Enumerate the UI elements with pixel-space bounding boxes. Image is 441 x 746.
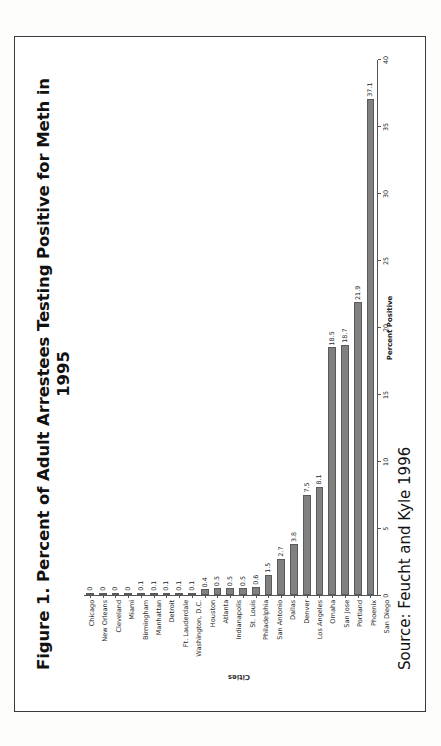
bar (290, 544, 298, 595)
bar (214, 588, 222, 595)
bar (239, 588, 247, 595)
bar-value-label: 0.5 (214, 576, 220, 586)
bar (316, 487, 324, 595)
bar-row: 1.5 (262, 60, 275, 595)
category-tick (230, 595, 231, 598)
bar-value-label: 7.5 (304, 482, 310, 492)
category-tick (332, 595, 333, 598)
bar-row: 18.7 (339, 60, 352, 595)
bar-row: 0.4 (198, 60, 211, 595)
category-label: Omaha (327, 596, 340, 666)
bar-value-label: 0.1 (138, 581, 144, 591)
category-label: Washington, D.C. (193, 596, 206, 666)
bar-row: 8.1 (313, 60, 326, 595)
category-tick (319, 595, 320, 598)
bar-row: 21.9 (351, 60, 364, 595)
figure-frame: Figure 1. Percent of Adult Arrestees Tes… (14, 36, 426, 712)
category-tick (370, 595, 371, 598)
bar-value-label: 1.5 (265, 563, 271, 573)
bar-row: 37.1 (364, 60, 377, 595)
category-label: Houston (206, 596, 219, 666)
x-axis-tick (378, 126, 381, 127)
x-axis-tick-label: 25 (382, 257, 390, 265)
category-tick (103, 595, 104, 598)
category-tick (141, 595, 142, 598)
category-tick (115, 595, 116, 598)
bar (277, 559, 285, 595)
category-axis-labels: ChicagoNew OrleansClevelandMiamiBirmingh… (84, 596, 394, 666)
x-axis-tick-label: 0 (382, 594, 390, 598)
category-label: Portland (354, 596, 367, 666)
category-label: San Jose (340, 596, 353, 666)
category-tick (281, 595, 282, 598)
bar-value-label: 3.8 (291, 532, 297, 542)
bar-value-label: 0 (100, 587, 106, 591)
x-axis-tick (378, 461, 381, 462)
figure-content: Figure 1. Percent of Adult Arrestees Tes… (20, 44, 420, 704)
category-label: St. Louis (246, 596, 259, 666)
bar (303, 495, 311, 595)
bar-row: 0.5 (237, 60, 250, 595)
bar-row: 0.1 (173, 60, 186, 595)
category-label: Philadelphia (260, 596, 273, 666)
category-tick (179, 595, 180, 598)
bar-value-label: 0 (87, 587, 93, 591)
category-label: Denver (300, 596, 313, 666)
category-tick (154, 595, 155, 598)
category-label: Chicago (86, 596, 99, 666)
category-tick (192, 595, 193, 598)
x-axis-tick (378, 394, 381, 395)
category-tick (358, 595, 359, 598)
category-tick (166, 595, 167, 598)
category-label: Indianapolis (233, 596, 246, 666)
bar (328, 347, 336, 594)
x-axis-tick (378, 327, 381, 328)
bar-value-label: 0 (112, 587, 118, 591)
source-caption: Source: Feucht and Kyle 1996 (396, 60, 414, 670)
x-axis-tick-label: 15 (382, 391, 390, 399)
x-axis-tick-label: 40 (382, 56, 390, 64)
figure-title: Figure 1. Percent of Adult Arrestees Tes… (34, 60, 74, 688)
plot-bars: 00000.10.10.10.10.10.40.50.50.50.61.52.7… (84, 60, 377, 596)
y-axis-title: Cities (84, 666, 394, 688)
chart-area: Cities ChicagoNew OrleansClevelandMiamiB… (84, 60, 394, 688)
bar-row: 18.5 (326, 60, 339, 595)
bar-row: 0.1 (135, 60, 148, 595)
bar-value-label: 18.7 (342, 329, 348, 343)
bar-row: 0.5 (224, 60, 237, 595)
bar-value-label: 18.5 (329, 331, 335, 345)
x-axis-tick (378, 528, 381, 529)
x-axis-tick (378, 260, 381, 261)
x-axis-tick (378, 595, 381, 596)
x-axis: Percent Positive 0510152025303540 (377, 60, 394, 596)
category-label: Miami (126, 596, 139, 666)
bar-value-label: 0.1 (176, 581, 182, 591)
bar-row: 0.6 (249, 60, 262, 595)
bar (367, 99, 375, 595)
bar-value-label: 0.5 (227, 576, 233, 586)
bar-value-label: 8.1 (316, 474, 322, 484)
category-label: Birmingham (139, 596, 152, 666)
bar-row: 7.5 (300, 60, 313, 595)
category-tick (243, 595, 244, 598)
bar-row: 0 (84, 60, 97, 595)
bar-row: 0.1 (186, 60, 199, 595)
bar-row: 3.8 (288, 60, 301, 595)
x-axis-tick-label: 5 (382, 527, 390, 531)
x-axis-tick-label: 35 (382, 123, 390, 131)
category-tick (294, 595, 295, 598)
bar-value-label: 0.1 (189, 581, 195, 591)
x-axis-tick (378, 59, 381, 60)
category-tick (268, 595, 269, 598)
plot-wrapper: 00000.10.10.10.10.10.40.50.50.50.61.52.7… (84, 60, 394, 596)
scanned-page-background: Figure 1. Percent of Adult Arrestees Tes… (0, 0, 441, 746)
category-label: Phoenix (367, 596, 380, 666)
x-axis-tick (378, 193, 381, 194)
bar (265, 575, 273, 595)
bar (226, 588, 234, 595)
bar-value-label: 0.1 (151, 581, 157, 591)
bar (341, 345, 349, 595)
bar-value-label: 0.5 (240, 576, 246, 586)
category-tick (128, 595, 129, 598)
category-label: New Orleans (99, 596, 112, 666)
